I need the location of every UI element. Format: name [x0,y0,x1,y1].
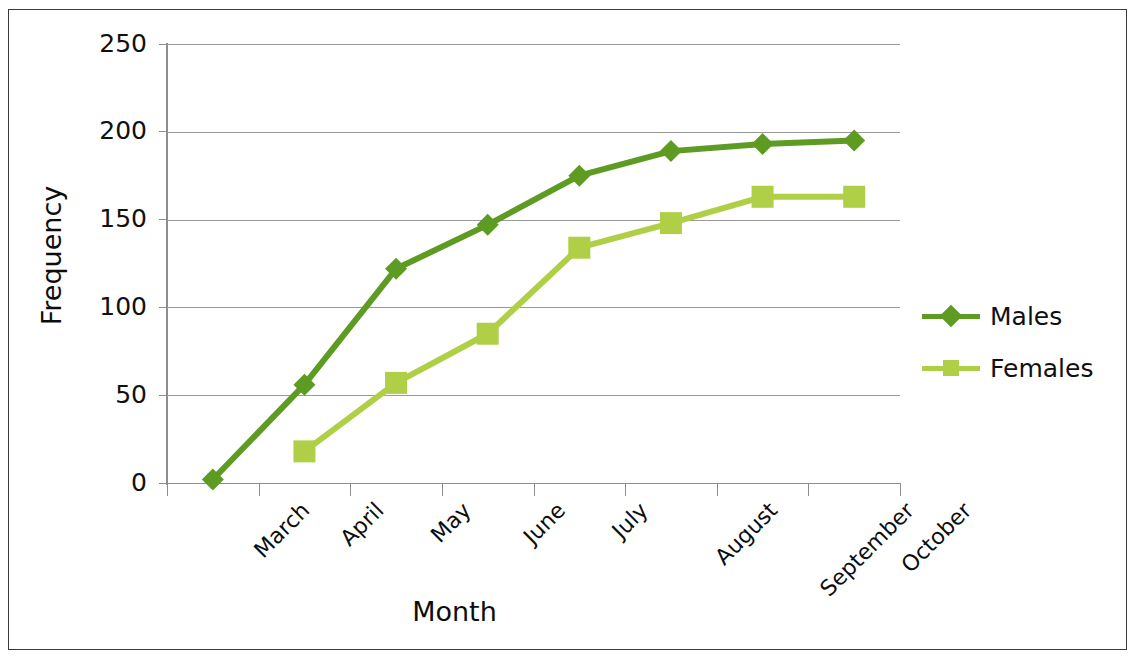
square-marker-icon [943,360,959,376]
y-tick-200 [159,131,166,132]
x-tick-2 [350,483,351,496]
data-point-females-3[interactable] [568,237,590,259]
x-tick-3 [442,483,443,496]
x-tick-7 [808,483,809,496]
data-point-females-0[interactable] [293,440,315,462]
x-axis-title: Month [9,596,900,627]
x-tick-8 [900,483,901,496]
data-point-females-1[interactable] [385,372,407,394]
data-point-males-3[interactable] [477,214,499,236]
y-tick-50 [159,395,166,396]
x-tick-0 [167,483,168,496]
series-line-females [304,197,854,452]
data-point-females-2[interactable] [477,323,499,345]
x-tick-1 [259,483,260,496]
y-tick-label-100: 100 [87,294,147,319]
data-point-males-7[interactable] [843,130,865,152]
x-tick-label-april: April [337,499,388,550]
x-tick-label-june: June [520,499,569,548]
y-tick-100 [159,307,166,308]
x-tick-6 [717,483,718,496]
y-tick-label-150: 150 [87,206,147,231]
y-tick-label-0: 0 [87,470,147,495]
x-tick-label-may: May [427,499,475,547]
x-tick-4 [534,483,535,496]
legend-swatch-males [922,305,980,327]
data-point-males-6[interactable] [752,133,774,155]
chart-legend: Males Females [922,290,1122,394]
y-tick-250 [159,44,166,45]
x-tick-label-august: August [711,499,781,569]
y-axis-tick-labels: 250 200 150 100 50 0 [87,10,147,659]
legend-swatch-females [922,357,980,379]
data-point-males-5[interactable] [660,140,682,162]
x-tick-label-july: July [609,499,653,543]
x-tick-label-march: March [250,499,313,562]
y-tick-0 [159,483,166,484]
data-point-males-4[interactable] [568,165,590,187]
y-axis-title: Frequency [36,126,67,386]
legend-label-females: Females [990,356,1093,381]
y-tick-label-50: 50 [87,382,147,407]
plot-area [167,44,900,483]
x-tick-label-september: September [816,499,918,601]
data-point-females-5[interactable] [752,186,774,208]
legend-label-males: Males [990,304,1062,329]
data-point-females-4[interactable] [660,212,682,234]
y-tick-label-250: 250 [87,31,147,56]
diamond-marker-icon [940,305,963,328]
x-tick-5 [625,483,626,496]
data-point-females-6[interactable] [843,186,865,208]
y-tick-label-200: 200 [87,118,147,143]
legend-item-females[interactable]: Females [922,342,1122,394]
y-tick-150 [159,219,166,220]
legend-item-males[interactable]: Males [922,290,1122,342]
chart-page: 250 200 150 100 50 0 MarchAprilMayJune [0,0,1135,659]
series-plot [167,44,900,483]
figure-frame: 250 200 150 100 50 0 MarchAprilMayJune [8,9,1127,650]
